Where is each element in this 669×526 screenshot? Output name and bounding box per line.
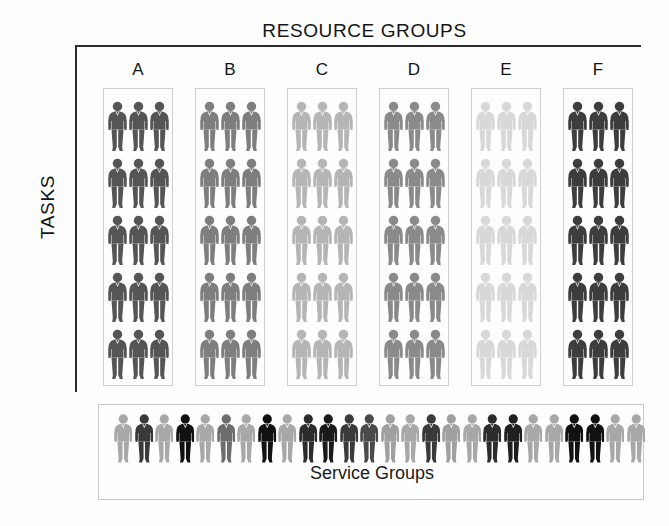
person-icon	[220, 101, 241, 151]
person-icon	[236, 413, 257, 463]
person-icon	[567, 158, 588, 208]
person-icon	[517, 272, 538, 322]
person-icon	[475, 101, 496, 151]
column-box-d	[379, 88, 449, 386]
person-icon	[588, 272, 609, 322]
column-letter-d: D	[368, 56, 460, 84]
task-row	[288, 151, 356, 208]
person-icon	[291, 158, 312, 208]
task-row	[564, 265, 632, 322]
task-row	[380, 265, 448, 322]
person-icon	[128, 272, 149, 322]
person-icon	[312, 329, 333, 379]
person-icon	[383, 158, 404, 208]
person-icon	[339, 413, 360, 463]
person-icon	[359, 413, 380, 463]
person-icon	[154, 413, 175, 463]
service-groups-figure-row	[113, 411, 633, 463]
person-icon	[149, 329, 170, 379]
resource-group-column-e[interactable]: E	[460, 56, 552, 392]
person-icon	[312, 272, 333, 322]
column-letter-c: C	[276, 56, 368, 84]
person-icon	[462, 413, 483, 463]
person-icon	[609, 158, 630, 208]
person-icon	[441, 413, 462, 463]
task-row	[472, 265, 540, 322]
task-row	[196, 322, 264, 379]
person-icon	[291, 272, 312, 322]
person-icon	[199, 272, 220, 322]
person-icon	[588, 101, 609, 151]
person-icon	[585, 413, 606, 463]
person-icon	[241, 329, 262, 379]
person-icon	[400, 413, 421, 463]
person-icon	[199, 101, 220, 151]
person-icon	[425, 101, 446, 151]
task-row	[472, 151, 540, 208]
column-letter-b: B	[184, 56, 276, 84]
person-icon	[496, 329, 517, 379]
person-icon	[404, 215, 425, 265]
resource-group-column-a[interactable]: A	[92, 56, 184, 392]
person-icon	[257, 413, 278, 463]
person-icon	[128, 215, 149, 265]
person-icon	[241, 158, 262, 208]
person-icon	[149, 101, 170, 151]
task-row	[104, 208, 172, 265]
person-icon	[475, 329, 496, 379]
task-row	[288, 208, 356, 265]
person-icon	[195, 413, 216, 463]
person-icon	[383, 329, 404, 379]
task-row	[196, 151, 264, 208]
resource-group-column-d[interactable]: D	[368, 56, 460, 392]
person-icon	[312, 215, 333, 265]
task-row	[288, 265, 356, 322]
person-icon	[517, 215, 538, 265]
person-icon	[567, 272, 588, 322]
person-icon	[291, 215, 312, 265]
person-icon	[496, 215, 517, 265]
task-row	[564, 151, 632, 208]
top-axis-rule	[75, 45, 641, 47]
person-icon	[626, 413, 647, 463]
person-icon	[475, 215, 496, 265]
column-letter-f: F	[552, 56, 644, 84]
resource-group-column-b[interactable]: B	[184, 56, 276, 392]
person-icon	[128, 329, 149, 379]
person-icon	[383, 215, 404, 265]
person-icon	[383, 272, 404, 322]
person-icon	[107, 215, 128, 265]
person-icon	[298, 413, 319, 463]
person-icon	[517, 158, 538, 208]
person-icon	[475, 158, 496, 208]
person-icon	[333, 272, 354, 322]
task-row	[472, 208, 540, 265]
person-icon	[404, 158, 425, 208]
task-row	[380, 208, 448, 265]
column-box-a	[103, 88, 173, 386]
column-box-b	[195, 88, 265, 386]
person-icon	[383, 101, 404, 151]
resource-group-column-f[interactable]: F	[552, 56, 644, 392]
task-row	[380, 322, 448, 379]
task-row	[472, 322, 540, 379]
person-icon	[128, 158, 149, 208]
person-icon	[404, 272, 425, 322]
person-icon	[241, 215, 262, 265]
person-icon	[128, 101, 149, 151]
person-icon	[609, 215, 630, 265]
person-icon	[220, 158, 241, 208]
person-icon	[567, 101, 588, 151]
person-icon	[333, 215, 354, 265]
column-box-c	[287, 88, 357, 386]
person-icon	[220, 215, 241, 265]
person-icon	[564, 413, 585, 463]
person-icon	[220, 329, 241, 379]
resource-group-column-c[interactable]: C	[276, 56, 368, 392]
person-icon	[567, 215, 588, 265]
person-icon	[496, 101, 517, 151]
person-icon	[517, 329, 538, 379]
task-row	[472, 94, 540, 151]
diagram-canvas: RESOURCE GROUPS TASKS ABCDEF Service Gro…	[0, 0, 669, 526]
task-row	[104, 94, 172, 151]
